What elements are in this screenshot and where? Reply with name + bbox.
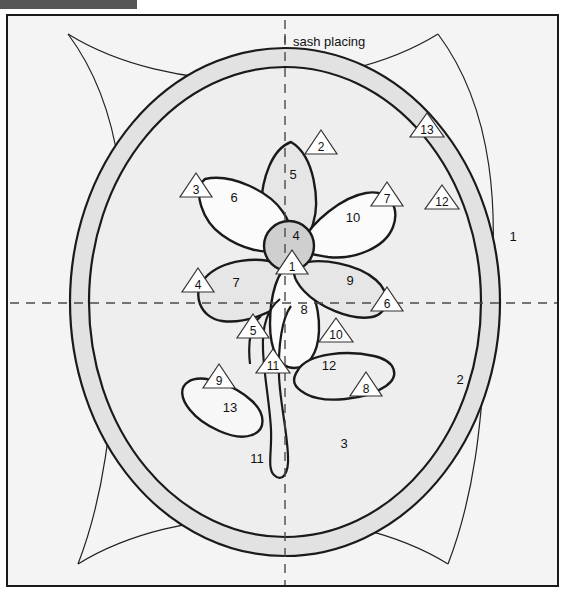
stem-label-11: 11 [250,451,264,466]
callout-text-3: 3 [193,183,200,197]
petal-label-5: 5 [289,167,296,182]
sash-placing-label: sash placing [293,34,365,49]
petal-label-8: 8 [300,302,307,317]
top-title-bar [0,0,137,9]
callout-text-7: 7 [384,192,391,206]
callout-text-6: 6 [384,297,391,311]
diagram-frame: sash placing 1 2 3 5 6 7 8 9 10 4 12 13 … [6,14,559,587]
callout-text-2: 2 [318,140,325,154]
diagram-canvas: sash placing 1 2 3 5 6 7 8 9 10 4 12 13 … [8,16,559,587]
region-label-1: 1 [509,229,516,244]
callout-text-12: 12 [435,195,449,209]
callout-text-10: 10 [329,328,343,342]
petal-label-7: 7 [232,275,239,290]
region-label-3: 3 [340,436,347,451]
petal-label-10: 10 [346,210,360,225]
callout-text-11: 11 [267,359,280,373]
callout-text-4: 4 [195,278,202,292]
leaf-label-12: 12 [322,358,336,373]
leaf-label-13: 13 [223,400,237,415]
petal-label-9: 9 [346,273,353,288]
callout-text-13: 13 [420,123,434,137]
callout-text-1: 1 [289,260,296,274]
petal-label-6: 6 [230,190,237,205]
callout-text-8: 8 [363,382,370,396]
callout-text-9: 9 [216,374,223,388]
region-label-2: 2 [456,372,463,387]
center-label-4: 4 [292,228,299,243]
callout-text-5: 5 [250,324,257,338]
